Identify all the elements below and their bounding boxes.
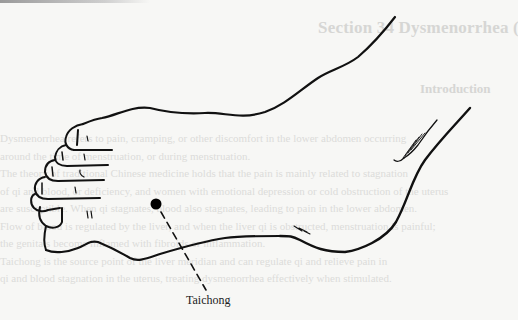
- taichong-point-marker: [151, 199, 162, 210]
- toe-5: [31, 194, 60, 211]
- big-toe: [65, 124, 83, 150]
- sole-outline: [46, 236, 280, 260]
- ankle-back-outline: [280, 108, 470, 252]
- toe-3: [45, 160, 104, 181]
- foot-illustration: [0, 0, 518, 320]
- taichong-label: Taichong: [186, 293, 230, 308]
- foot-top-outline: [83, 17, 395, 124]
